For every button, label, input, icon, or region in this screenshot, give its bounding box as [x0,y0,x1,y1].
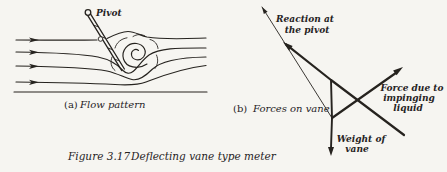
panel-a-flow-pattern: Pivot (a) Flow pattern [14,8,207,110]
swirl-arc [150,40,158,49]
streamline-4 [16,66,206,85]
vane-bearing-circle [98,37,103,42]
vane-line-arrowhead-icon [262,7,268,14]
figure-3-17: Pivot (a) Flow pattern Reaction at the p… [0,0,447,172]
weight-label-line2: vane [345,144,369,154]
panel-b-forces-on-vane: Reaction at the pivot Force due to impin… [233,7,443,156]
panel-b-title: Forces on vane [252,103,330,114]
panel-a-index: (a) [64,99,78,110]
weight-arrowhead-icon [328,147,334,156]
swirl-arc [115,38,127,48]
weight-vector [331,80,332,148]
pivot-label: Pivot [95,8,122,18]
force-label-line1: Force due to [380,83,444,93]
reaction-label-line2: the pivot [285,25,331,35]
figure-canvas: Pivot (a) Flow pattern Reaction at the p… [0,0,447,172]
weight-label-line1: Weight of [337,134,388,144]
force-label-line2: impinging [383,93,435,103]
panel-a-title: Flow pattern [79,99,145,110]
pivot-circle [85,10,91,16]
reaction-label-line1: Reaction at [275,14,335,24]
streamline-1-right [107,32,206,39]
force-label-line3: liquid [393,103,423,113]
caption-number: Figure 3.17 [67,150,130,162]
caption-title: Deflecting vane type meter [130,150,277,162]
vortex-spiral [123,43,147,67]
panel-b-index: (b) [233,103,247,114]
figure-caption: Figure 3.17 Deflecting vane type meter [67,150,277,162]
